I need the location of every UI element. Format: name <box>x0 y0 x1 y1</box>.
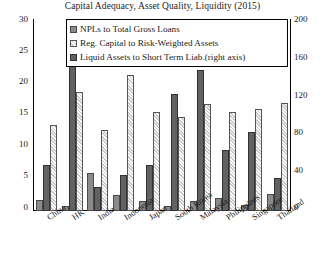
legend-item-liquid-assets: Liquid Assets to Short Term Liab.(right … <box>70 50 284 64</box>
y-axis-tick-right-3: 120 <box>294 91 324 100</box>
x-axis-label-cell: Japan <box>136 212 162 267</box>
bar-npl <box>87 173 94 211</box>
bar-regulatory-capital <box>281 103 288 211</box>
x-axis-label-cell: South Korea <box>162 212 188 267</box>
legend-swatch-npl-icon <box>70 26 77 33</box>
y-axis-tick-left-4: 20 <box>0 77 28 86</box>
legend-item-regulatory-capital: Reg. Capital to Risk-Weighted Assets <box>70 36 284 50</box>
y-axis-tick-left-2: 10 <box>0 140 28 149</box>
legend-swatch-liquid-assets-icon <box>70 54 77 61</box>
legend-label-liquid-assets: Liquid Assets to Short Term Liab.(right … <box>80 52 245 62</box>
bar-group-china <box>34 20 60 211</box>
legend-swatch-regulatory-capital-icon <box>70 40 77 47</box>
bar-regulatory-capital <box>178 117 185 211</box>
y-axis-tick-left-6: 30 <box>0 15 28 24</box>
bar-liquid-assets <box>94 187 101 211</box>
bar-liquid-assets <box>43 165 50 211</box>
legend-label-regulatory-capital: Reg. Capital to Risk-Weighted Assets <box>80 38 218 48</box>
bar-regulatory-capital <box>127 75 134 211</box>
x-axis-labels: ChinaHKIndiaIndonesiaJapanSouth KoreaMal… <box>34 212 290 267</box>
x-axis-label-cell: Indonesia <box>111 212 137 267</box>
bar-liquid-assets <box>69 53 76 211</box>
y-axis-tick-left-0: 0 <box>0 203 28 212</box>
x-axis-label-cell: Thailand <box>264 212 290 267</box>
bar-liquid-assets <box>120 175 127 211</box>
y-axis-tick-right-1: 40 <box>294 166 324 175</box>
y-axis-tick-left-3: 15 <box>0 108 28 117</box>
y-axis-tick-right-4: 160 <box>294 53 324 62</box>
x-axis-label-cell: HK <box>60 212 86 267</box>
x-axis-label-cell: China <box>34 212 60 267</box>
bar-regulatory-capital <box>229 112 236 211</box>
y-axis-tick-left-5: 25 <box>0 46 28 55</box>
x-axis-label-cell: Philippines <box>213 212 239 267</box>
bar-npl <box>36 200 43 211</box>
bar-liquid-assets <box>171 94 178 211</box>
x-axis-label-cell: Singapore <box>239 212 265 267</box>
chart-legend: NPLs to Total Gross Loans Reg. Capital t… <box>66 19 288 67</box>
bar-regulatory-capital <box>101 130 108 211</box>
y-axis-tick-right-2: 80 <box>294 128 324 137</box>
chart-container: Capital Adequacy, Asset Quality, Liquidi… <box>0 0 325 267</box>
y-axis-tick-right-5: 200 <box>294 15 324 24</box>
y-axis-tick-left-1: 5 <box>0 171 28 180</box>
chart-title: Capital Adequacy, Asset Quality, Liquidi… <box>0 1 325 11</box>
x-axis-label-cell: India <box>85 212 111 267</box>
bar-regulatory-capital <box>50 125 57 211</box>
bar-regulatory-capital <box>153 112 160 211</box>
bar-regulatory-capital <box>76 92 83 211</box>
x-axis-label-cell: Malaysia <box>188 212 214 267</box>
legend-label-npl: NPLs to Total Gross Loans <box>80 24 180 34</box>
legend-item-npl: NPLs to Total Gross Loans <box>70 22 284 36</box>
bar-liquid-assets <box>197 70 204 211</box>
